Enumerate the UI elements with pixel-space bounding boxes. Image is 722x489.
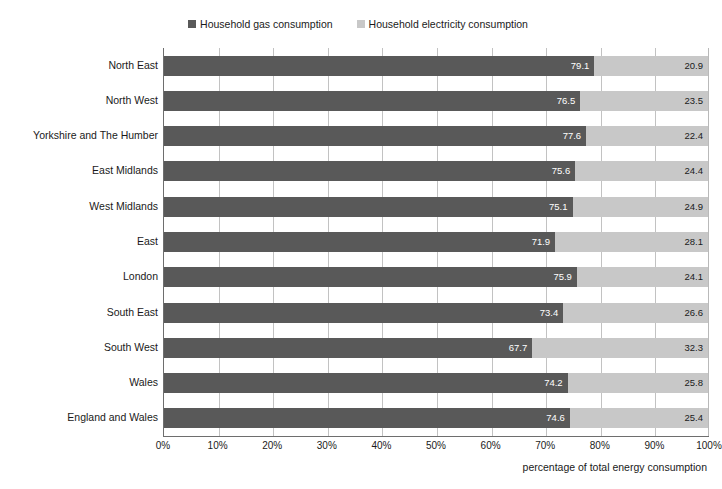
bar-value-label-gas: 77.6 [563,131,582,141]
bar-row: 74.225.8 [164,373,708,393]
bar-segment-gas: 71.9 [164,232,555,252]
bar-row: 67.732.3 [164,338,708,358]
legend-label-electricity: Household electricity consumption [369,18,528,30]
bar-row: 74.625.4 [164,408,708,428]
category-axis-labels: North EastNorth WestYorkshire and The Hu… [0,48,158,436]
category-label: North West [3,94,158,106]
bar-value-label-electricity: 32.3 [685,343,704,353]
bar-segment-gas: 73.4 [164,303,563,323]
bar-value-label-gas: 67.7 [509,343,528,353]
bar-segment-electricity: 28.1 [555,232,708,252]
x-tick-label: 30% [317,440,337,451]
bar-segment-gas: 74.6 [164,408,570,428]
category-label: Yorkshire and The Humber [3,129,158,141]
bar-segment-gas: 76.5 [164,91,580,111]
bar-segment-electricity: 24.9 [573,197,708,217]
bar-value-label-electricity: 22.4 [685,131,704,141]
bar-row: 71.928.1 [164,232,708,252]
bar-segment-gas: 79.1 [164,56,594,76]
x-tick-label: 40% [371,440,391,451]
x-tick-label: 0% [156,440,170,451]
bar-segment-electricity: 20.9 [594,56,708,76]
bar-segment-electricity: 22.4 [586,126,708,146]
x-axis-tick-labels: 0%10%20%30%40%50%60%70%80%90%100% [163,440,709,456]
x-axis-line [163,436,709,437]
bar-segment-electricity: 24.1 [577,267,708,287]
bar-row: 76.523.5 [164,91,708,111]
category-label: England and Wales [3,411,158,423]
bar-row: 75.624.4 [164,161,708,181]
bar-row: 73.426.6 [164,303,708,323]
legend-label-gas: Household gas consumption [200,18,333,30]
bar-row: 77.622.4 [164,126,708,146]
bar-value-label-electricity: 23.5 [685,96,704,106]
bar-segment-electricity: 23.5 [580,91,708,111]
bar-value-label-gas: 71.9 [532,237,551,247]
category-label: South East [3,306,158,318]
bar-value-label-electricity: 20.9 [685,61,704,71]
category-label: North East [3,59,158,71]
bar-segment-electricity: 32.3 [532,338,708,358]
chart-legend: Household gas consumption Household elec… [0,18,716,30]
bar-segment-gas: 74.2 [164,373,568,393]
legend-item-electricity: Household electricity consumption [357,18,528,30]
bar-value-label-electricity: 26.6 [685,308,704,318]
bar-row: 75.124.9 [164,197,708,217]
bar-row: 79.120.9 [164,56,708,76]
x-tick-label: 100% [696,440,722,451]
bar-value-label-gas: 73.4 [540,308,559,318]
x-tick-label: 50% [426,440,446,451]
x-tick-label: 90% [644,440,664,451]
bar-value-label-electricity: 25.4 [685,414,704,424]
legend-swatch-electricity [357,20,365,28]
bar-segment-electricity: 25.8 [568,373,708,393]
x-tick-label: 60% [481,440,501,451]
bar-segment-electricity: 25.4 [570,408,708,428]
x-tick-label: 70% [535,440,555,451]
bar-segment-gas: 67.7 [164,338,532,358]
bar-value-label-gas: 76.5 [557,96,576,106]
legend-item-gas: Household gas consumption [188,18,333,30]
category-label: West Midlands [3,200,158,212]
x-tick-label: 20% [262,440,282,451]
bar-value-label-electricity: 24.9 [685,202,704,212]
bar-segment-gas: 77.6 [164,126,586,146]
category-label: East [3,235,158,247]
bar-value-label-electricity: 28.1 [685,237,704,247]
bar-value-label-electricity: 24.1 [685,273,704,283]
x-tick-label: 10% [208,440,228,451]
category-label: South West [3,341,158,353]
x-axis-title: percentage of total energy consumption [163,461,709,473]
bar-value-label-electricity: 24.4 [685,167,704,177]
bar-segment-electricity: 26.6 [563,303,708,323]
bar-segment-gas: 75.9 [164,267,577,287]
category-label: East Midlands [3,164,158,176]
bar-value-label-gas: 75.9 [553,273,572,283]
legend-swatch-gas [188,20,196,28]
bar-segment-gas: 75.1 [164,197,573,217]
plot-area: 79.120.976.523.577.622.475.624.475.124.9… [163,48,709,436]
bar-value-label-gas: 74.2 [544,378,563,388]
x-tick-label: 80% [590,440,610,451]
bar-row: 75.924.1 [164,267,708,287]
bar-segment-gas: 75.6 [164,161,575,181]
bar-value-label-gas: 74.6 [546,414,565,424]
bar-value-label-gas: 75.6 [552,167,571,177]
bar-value-label-gas: 79.1 [571,61,590,71]
bar-segment-electricity: 24.4 [575,161,708,181]
bar-value-label-electricity: 25.8 [685,378,704,388]
bar-value-label-gas: 75.1 [549,202,568,212]
category-label: London [3,270,158,282]
category-label: Wales [3,376,158,388]
